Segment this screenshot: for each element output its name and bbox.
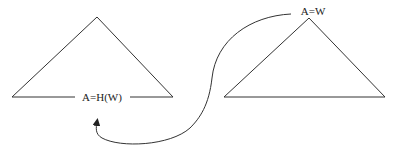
right-triangle: A=W [224,5,385,97]
diagram-canvas: A=H(W) A=W [0,0,397,152]
right-triangle-outline [224,18,385,97]
left-triangle: A=H(W) [12,17,173,104]
right-triangle-label: A=W [301,5,326,17]
left-triangle-outline [12,17,173,97]
left-triangle-label: A=H(W) [82,91,122,104]
mapping-arrow [96,14,291,144]
